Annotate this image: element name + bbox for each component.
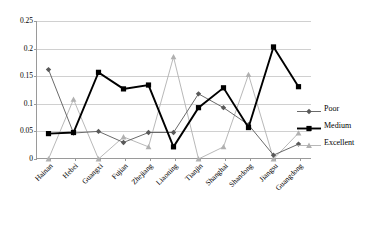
y-tick-label: 0.25 — [20, 17, 33, 25]
x-tick-label-fujian: Fujian — [110, 162, 129, 181]
x-tick-label-shandong: Shandong — [227, 162, 254, 189]
legend-item-medium[interactable]: Medium — [296, 117, 374, 134]
legend-label: Poor — [324, 105, 339, 113]
y-tick-mark — [34, 131, 37, 132]
legend-label: Excellent — [324, 139, 354, 147]
x-axis: HainanHebeiGuangxiFujianZhejiangLiaoning… — [36, 160, 311, 228]
line-chart: 00.050.10.150.20.25 HainanHebeiGuangxiFu… — [0, 0, 377, 232]
y-tick-mark — [34, 21, 37, 22]
x-tick-label-jiangsu: Jiangsu — [258, 162, 279, 183]
y-tick-mark — [34, 104, 37, 105]
y-tick-label: 0.15 — [20, 72, 33, 80]
plot-area — [36, 21, 311, 159]
y-tick-mark — [34, 49, 37, 50]
legend-marker-triangle-icon — [296, 137, 322, 148]
y-tick-label: 0 — [29, 155, 33, 163]
legend-item-poor[interactable]: Poor — [296, 100, 374, 117]
x-tick-label-shanghai: Shanghai — [204, 162, 229, 187]
legend-label: Medium — [324, 122, 351, 130]
y-tick-mark — [34, 76, 37, 77]
gridline — [37, 104, 311, 105]
y-tick-label: 0.2 — [24, 45, 33, 53]
x-tick-label-liaoning: Liaoning — [154, 162, 178, 186]
x-tick-label-guangxi: Guangxi — [80, 162, 104, 186]
x-tick-label-hebei: Hebei — [61, 162, 79, 180]
x-tick-label-zhejiang: Zhejiang — [130, 162, 154, 186]
x-tick-label-tianjin: Tianjin — [183, 162, 203, 182]
chart-legend: PoorMediumExcellent — [296, 100, 374, 151]
gridline — [37, 76, 311, 77]
y-tick-label: 0.1 — [24, 100, 33, 108]
y-axis: 00.050.10.150.20.25 — [0, 21, 33, 159]
legend-marker-diamond-icon — [296, 103, 322, 114]
y-tick-label: 0.05 — [20, 128, 33, 136]
gridline — [37, 131, 311, 132]
legend-marker-square-icon — [296, 120, 322, 131]
gridline — [37, 21, 311, 22]
legend-item-excellent[interactable]: Excellent — [296, 134, 374, 151]
gridline — [37, 49, 311, 50]
x-tick-label-hainan: Hainan — [33, 162, 54, 183]
